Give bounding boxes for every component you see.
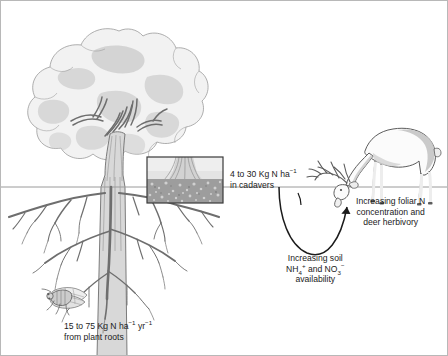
superscript-nitrate-charge: − (341, 262, 345, 269)
superscript-inverse-year: −1 (145, 319, 152, 326)
subscript-nitrate-3: 3 (338, 268, 341, 275)
nitrogen-cycling-diagram: 4 to 30 Kg N ha−1 in cadavers 15 to 75 K… (0, 0, 448, 356)
label-root-line2: from plant roots (64, 332, 152, 343)
label-foliar-line2: concentration and (356, 207, 425, 218)
arrow-cadavers-to-soil (298, 193, 301, 205)
superscript-inverse-hectare: −1 (129, 319, 136, 326)
label-soil-line3: availability (286, 274, 345, 285)
superscript-inverse-hectare: −1 (290, 167, 297, 174)
label-foliar-line3: deer herbivory (356, 217, 425, 228)
label-soil-availability: Increasing soil NH4+ and NO3− availabili… (286, 253, 345, 285)
label-root-line1: 15 to 75 Kg N ha−1 yr−1 (64, 321, 152, 332)
soil-cross-section-photo (147, 157, 223, 203)
label-cadaver-line2: in cadavers (230, 180, 297, 191)
label-soil-line1: Increasing soil (286, 253, 345, 264)
cicada-icon (42, 288, 87, 315)
label-foliar-nitrogen: Increasing foliar N concentration and de… (356, 196, 425, 228)
label-cadaver-nitrogen: 4 to 30 Kg N ha−1 in cadavers (230, 169, 297, 190)
label-cadaver-line1: 4 to 30 Kg N ha−1 (230, 169, 297, 180)
label-soil-line2: NH4+ and NO3− (286, 264, 345, 275)
label-foliar-line1: Increasing foliar N (356, 196, 425, 207)
label-root-nitrogen: 15 to 75 Kg N ha−1 yr−1 from plant roots (64, 321, 152, 342)
diagram-illustration (1, 1, 448, 356)
